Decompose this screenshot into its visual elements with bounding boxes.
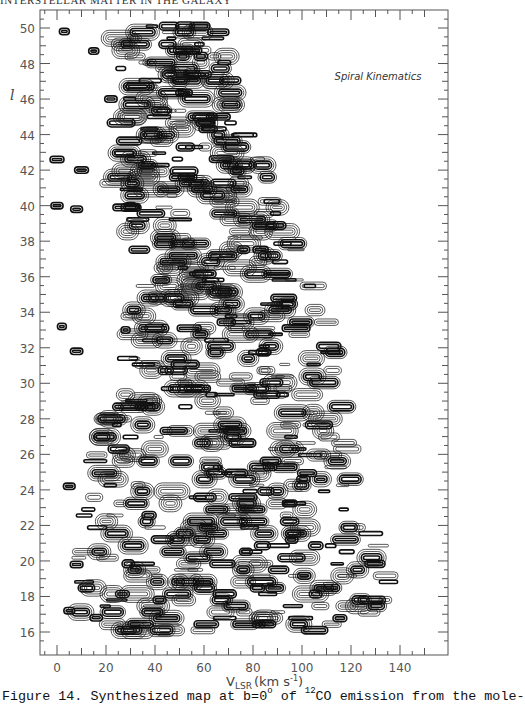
x-tick-label: 120 [340, 661, 363, 675]
x-tick-label: 0 [53, 661, 61, 675]
y-tick-label: 32 [20, 342, 35, 356]
x-label-close: ) [298, 674, 303, 689]
y-tick-label: 30 [20, 377, 35, 391]
y-tick-label: 34 [20, 306, 35, 320]
x-tick-label: 40 [147, 661, 162, 675]
y-tick-label: 28 [20, 413, 35, 427]
y-axis-label: l [10, 87, 14, 103]
x-tick-label: 100 [291, 661, 314, 675]
y-tick-label: 20 [20, 555, 35, 569]
y-tick-label: 50 [20, 22, 35, 36]
spiral-kinematics-label: Spiral Kinematics [335, 71, 422, 82]
caption-degree: o [267, 686, 272, 696]
x-tick-label: 60 [196, 661, 211, 675]
caption-isotope: 12 [305, 686, 316, 696]
x-tick-label: 140 [389, 661, 412, 675]
contour-features [50, 22, 398, 639]
x-tick-label: 20 [98, 661, 113, 675]
y-tick-label: 18 [20, 590, 35, 604]
x-tick-label: 80 [245, 661, 260, 675]
y-tick-label: 24 [20, 484, 35, 498]
x-label-main: V [226, 674, 235, 689]
caption-prefix: Figure 14. Synthesized map at b=0 [2, 689, 267, 704]
y-tick-label: 22 [20, 519, 35, 533]
y-tick-label: 44 [20, 129, 35, 143]
y-tick-label: 46 [20, 93, 35, 107]
caption-mid: of [273, 689, 305, 704]
x-label-exp: -1 [290, 674, 298, 683]
y-tick-label: 48 [20, 58, 35, 72]
caption-suffix: CO emission from the mole- [316, 689, 525, 704]
y-tick-label: 16 [20, 626, 35, 640]
y-tick-label: 26 [20, 448, 35, 462]
figure-caption: Figure 14. Synthesized map at b=0o of 12… [2, 688, 525, 704]
y-tick-label: 42 [20, 164, 35, 178]
y-tick-label: 36 [20, 271, 35, 285]
y-tick-label: 40 [20, 200, 35, 214]
y-tick-label: 38 [20, 235, 35, 249]
